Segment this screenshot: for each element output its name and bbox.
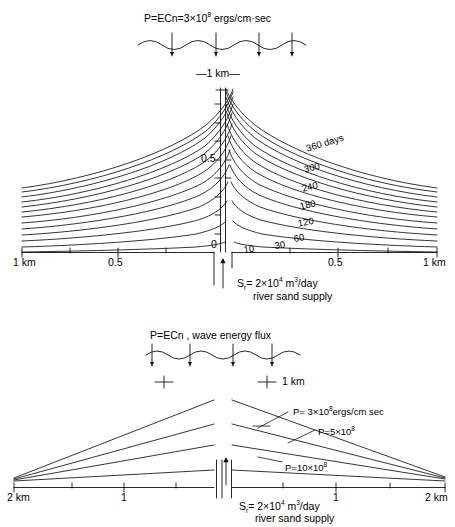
top-curve-family: [22, 89, 437, 252]
top-y-label-zero: 0: [211, 239, 217, 250]
curve-label-10: 10: [243, 244, 255, 255]
top-x-label-right-outer: 1 km: [423, 257, 446, 268]
curve-label-30: 30: [274, 240, 286, 251]
bottom-scale-bar-label: 1 km: [282, 376, 305, 387]
top-source-caption: river sand supply: [253, 291, 332, 302]
top-x-axis: [22, 248, 437, 288]
top-wave-header: P=ECn=3×108 ergs/cm·sec: [144, 12, 271, 23]
top-scale-bar-label: —1 km—: [196, 68, 240, 79]
bottom-curve-label-p10: P=10×108: [285, 462, 327, 473]
top-x-label-left-mid: 0.5: [108, 257, 123, 268]
top-source-equation: Sr= 2×104 m3/day: [237, 277, 318, 291]
top-wave-train: [138, 33, 306, 56]
bottom-wave-header: P=ECn , wave energy flux: [150, 330, 271, 341]
top-y-label-half: 0.5: [201, 153, 216, 164]
top-x-label-left-outer: 1 km: [13, 257, 36, 268]
bottom-source-caption: river sand supply: [255, 513, 334, 524]
bottom-wave-train: [146, 344, 300, 366]
bottom-x-label-left-outer: 2 km: [7, 492, 30, 503]
figure-root: P=ECn=3×108 ergs/cm·sec —1 km— 0.5 0 1 k…: [0, 0, 455, 527]
bottom-x-label-left-mid: 1: [121, 492, 127, 503]
bottom-curve-label-p5: P=5×108: [318, 426, 355, 437]
figure-vector: [0, 0, 455, 527]
curve-label-60: 60: [293, 232, 305, 243]
bottom-scale-bar: [155, 376, 276, 388]
bottom-x-label-right-mid: 1: [333, 492, 339, 503]
bottom-curve-label-p3: P= 3×108ergs/cm sec: [293, 406, 384, 417]
top-x-label-right-mid: 0.5: [328, 257, 343, 268]
bottom-x-label-right-outer: 2 km: [425, 492, 448, 503]
